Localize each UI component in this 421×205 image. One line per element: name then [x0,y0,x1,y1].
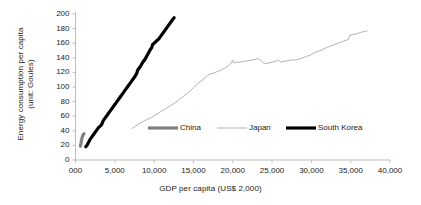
y-tick-label: 100 [44,82,70,91]
y-tick-label: 20 [44,140,70,149]
y-tick-label: 60 [44,111,70,120]
tick-marks [73,14,391,163]
y-tick-label: 160 [44,38,70,47]
x-tick-label: 35,000 [331,166,371,175]
y-axis-title: Energy consumption per capita (unit: Gou… [16,14,36,154]
x-tick-label: 30,000 [291,166,331,175]
chart-container: Energy consumption per capita (unit: Gou… [0,0,421,205]
x-tick-label: 25,000 [252,166,292,175]
legend-label-south-korea: South Korea [318,123,362,132]
x-tick-label: 10,000 [134,166,174,175]
y-axis-title-line1: Energy consumption per capita [16,27,25,140]
x-tick-label: 15,000 [173,166,213,175]
x-tick-label: 5,000 [95,166,135,175]
y-axis-title-line2: (unit: Goules) [26,14,36,154]
x-tick-label: 20,000 [213,166,253,175]
x-tick-label: 000 [56,166,96,175]
y-tick-label: 120 [44,67,70,76]
y-tick-label: 180 [44,24,70,33]
y-tick-label: 200 [44,9,70,18]
series-line-japan [132,31,367,129]
axis-lines [76,12,391,160]
y-tick-label: 40 [44,126,70,135]
legend-label-china: China [180,123,201,132]
series-line-china [80,134,84,146]
x-axis-title: GDP per capita (US$ 2,000) [0,184,421,193]
y-tick-label: 0 [44,155,70,164]
x-tick-label: 40,000 [370,166,410,175]
y-tick-label: 140 [44,53,70,62]
y-tick-label: 80 [44,97,70,106]
legend-label-japan: Japan [249,123,271,132]
